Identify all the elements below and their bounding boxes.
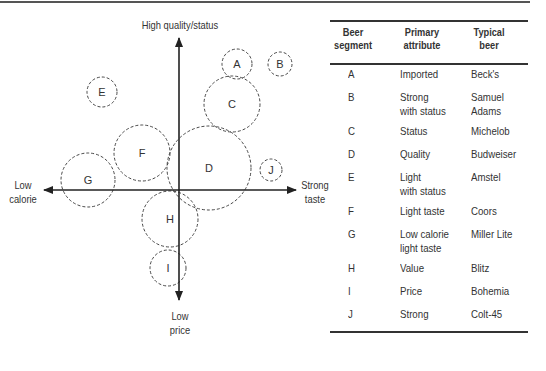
cell-attribute: Light taste <box>400 204 445 218</box>
axis-label-top: High quality/status <box>133 18 227 32</box>
cell-attribute: Quality <box>400 147 430 161</box>
cell-beer: Bohemia <box>471 284 509 298</box>
cell-segment: H <box>348 261 355 275</box>
segment-circles: ABCDEFGHIJ <box>61 49 292 286</box>
cell-attribute: Strong with status <box>400 90 446 118</box>
segment-label-f: F <box>139 147 146 159</box>
segment-label-d: D <box>205 162 213 174</box>
cell-attribute: Light with status <box>400 170 446 198</box>
cell-segment: F <box>348 204 354 218</box>
cell-segment: I <box>348 284 351 298</box>
cell-segment: E <box>348 170 354 184</box>
cell-beer: Miller Lite <box>471 227 512 241</box>
cell-beer: Budweiser <box>471 147 516 161</box>
cell-beer: Coors <box>471 204 497 218</box>
segment-label-i: I <box>166 262 169 274</box>
cell-attribute: Value <box>400 261 424 275</box>
table-bottom-rule <box>330 331 528 333</box>
segment-label-b: B <box>276 58 283 70</box>
cell-beer: Samuel Adams <box>471 90 521 118</box>
axis-label-left: Low calorie <box>7 178 39 206</box>
cell-beer: Colt-45 <box>471 307 502 321</box>
header-attribute: Primary attribute <box>397 26 446 52</box>
cell-segment: D <box>348 147 355 161</box>
axis-label-right: Strong taste <box>299 178 331 206</box>
axis-label-bottom: Low price <box>163 309 197 337</box>
cell-beer: Michelob <box>471 124 510 138</box>
segment-label-c: C <box>228 98 236 110</box>
segment-label-g: G <box>84 174 93 186</box>
cell-beer: Beck's <box>471 67 499 81</box>
cell-beer: Blitz <box>471 261 489 275</box>
header-segment: Beer segment <box>333 26 373 52</box>
segment-label-a: A <box>233 58 241 70</box>
segment-label-e: E <box>98 86 105 98</box>
segment-label-j: J <box>268 164 274 176</box>
header-beer: Typical beer <box>463 26 514 52</box>
cell-attribute: Status <box>400 124 427 138</box>
cell-beer: Amstel <box>471 170 501 184</box>
cell-attribute: Strong <box>400 307 429 321</box>
cell-segment: J <box>348 307 353 321</box>
segment-label-h: H <box>166 213 174 225</box>
table-top-rule <box>330 20 528 22</box>
cell-attribute: Imported <box>400 67 438 81</box>
cell-attribute: Low calorie light taste <box>400 227 449 255</box>
cell-segment: C <box>348 124 355 138</box>
cell-segment: B <box>348 90 354 104</box>
cell-segment: G <box>348 227 356 241</box>
cell-attribute: Price <box>400 284 422 298</box>
cell-segment: A <box>348 67 354 81</box>
table-header-rule <box>330 63 528 65</box>
